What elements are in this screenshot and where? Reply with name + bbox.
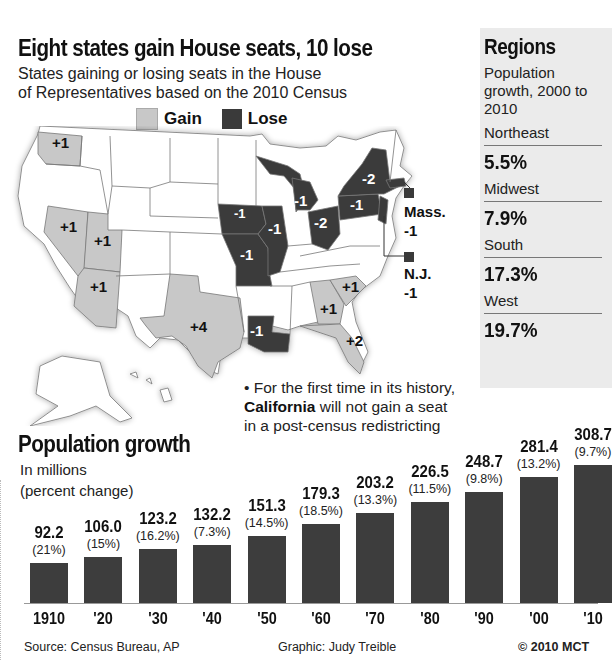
region-south-name: South [484,236,602,258]
region-west-name: West [484,292,602,314]
state-hawaii [130,372,172,402]
graphic-credit: Graphic: Judy Treible [278,640,396,654]
copyright: © 2010 MCT [518,640,589,654]
x-axis-line [24,603,598,604]
nj-callout-label: N.J. [404,264,432,283]
label-missouri: -1 [240,246,253,263]
bar-percent-label: (21%) [19,543,79,557]
note-line-3: in a post-census redistricting [244,416,484,435]
label-pennsylvania: -1 [350,196,363,213]
regions-panel: Regions Population growth, 2000 to 2010 … [480,28,612,388]
nj-callout-value: -1 [404,283,432,302]
chart-unit-label: In millions [20,459,133,480]
x-tick-label: '60 [294,610,348,628]
mass-callout-value: -1 [404,221,446,240]
bar-percent-label: (11.5%) [400,482,460,496]
x-tick-label: 1910 [22,610,76,628]
bar-4 [248,536,286,603]
bar-7 [411,502,449,603]
bar-percent-label: (18.5%) [291,504,351,518]
region-west-value: 19.7% [484,318,599,342]
x-tick-label: '80 [403,610,457,628]
regions-title: Regions [484,28,594,60]
region-midwest-name: Midwest [484,180,602,202]
bar-1 [84,557,122,603]
x-tick-label: '00 [512,610,566,628]
note-california: California [244,398,315,415]
x-tick-label: '40 [185,610,239,628]
mass-callout-label: Mass. [404,202,446,221]
x-tick-label: '90 [457,610,511,628]
california-note: • For the first time in its history, Cal… [244,378,484,435]
label-ohio: -2 [314,214,327,231]
mass-callout-swatch [404,188,414,198]
headline: Eight states gain House seats, 10 lose [18,34,372,62]
subtitle-line-1: States gaining or losing seats in the Ho… [18,64,458,83]
x-tick-label: '30 [131,610,185,628]
bar-value-label: 132.2 [186,505,239,525]
bar-value-label: 92.2 [23,523,76,543]
bar-8 [465,492,503,603]
label-texas: +4 [190,318,207,335]
bar-value-label: 151.3 [240,496,293,516]
side-credit-strip [0,480,5,660]
x-tick-label: '50 [240,610,294,628]
bar-percent-label: (13.3%) [345,493,405,507]
region-northeast-value: 5.5% [484,150,599,174]
bar-percent-label: (16.2%) [128,529,188,543]
state-alaska [30,356,132,426]
note-line-1: For the first time in its history, [254,379,455,396]
region-northeast-name: Northeast [484,124,602,146]
state-massachusetts [386,178,406,188]
bar-9 [520,477,558,603]
state-new-jersey [378,196,388,224]
bar-3 [193,545,231,603]
bar-value-label: 248.7 [458,452,511,472]
bar-value-label: 123.2 [131,509,184,529]
label-illinois: -1 [268,220,281,237]
chart-title: Population growth [18,430,190,458]
subtitle-line-2: of Representatives based on the 2010 Cen… [18,83,458,102]
label-louisiana: -1 [250,322,263,339]
bar-value-label: 179.3 [295,484,348,504]
bar-value-label: 308.7 [567,425,616,445]
region-midwest-value: 7.9% [484,206,599,230]
label-nevada: +1 [60,218,77,235]
bar-5 [302,524,340,603]
nj-callout-swatch [404,252,414,262]
label-georgia: +1 [320,300,337,317]
label-michigan: -1 [294,192,307,209]
bar-2 [139,549,177,603]
note-line-2: will not gain a seat [315,398,447,415]
bar-percent-label: (9.7%) [563,445,616,459]
bar-percent-label: (14.5%) [237,516,297,530]
mass-callout: Mass. -1 [404,202,446,240]
x-tick-label: '20 [76,610,130,628]
bar-value-label: 226.5 [403,462,456,482]
subtitle: States gaining or losing seats in the Ho… [18,64,458,102]
chart-subtitle: In millions (percent change) [20,459,133,501]
bar-percent-label: (13.2%) [509,457,569,471]
bar-percent-label: (9.8%) [454,472,514,486]
label-south-carolina: +1 [342,278,359,295]
bar-10 [574,465,612,603]
x-tick-label: '10 [566,610,616,628]
label-florida: +2 [346,332,363,349]
bar-value-label: 203.2 [349,473,402,493]
label-utah: +1 [94,232,111,249]
region-south-value: 17.3% [484,262,599,286]
label-new-york: -2 [362,170,375,187]
bar-6 [356,513,394,603]
bar-percent-label: (15%) [73,537,133,551]
source-credit: Source: Census Bureau, AP [24,640,180,654]
label-iowa: -1 [234,206,246,221]
regions-description: Population growth, 2000 to 2010 [484,64,596,118]
label-arizona: +1 [90,278,107,295]
bar-value-label: 106.0 [77,517,130,537]
label-washington: +1 [52,134,69,151]
note-bullet: • [244,379,249,396]
x-tick-label: '70 [348,610,402,628]
bar-percent-label: (7.3%) [182,525,242,539]
bar-0 [30,563,68,603]
bar-value-label: 281.4 [512,437,565,457]
